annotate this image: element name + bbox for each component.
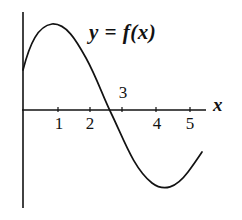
- x-tick-label-4: 4: [147, 115, 167, 132]
- x-axis-label: x: [213, 95, 223, 114]
- function-curve: [23, 24, 202, 188]
- function-label: y = f(x): [89, 22, 156, 43]
- x-tick-label-5: 5: [180, 115, 200, 132]
- figure-canvas: y = f(x) x 1 2 3 4 5: [0, 0, 242, 220]
- x-tick-label-3: 3: [113, 84, 133, 101]
- x-tick-label-2: 2: [80, 115, 100, 132]
- x-tick-label-1: 1: [49, 115, 69, 132]
